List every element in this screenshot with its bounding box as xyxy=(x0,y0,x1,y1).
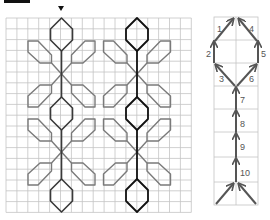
step-label-5: 5 xyxy=(261,49,266,59)
stitch-guide: 1 2 3 4 5 6 7 8 9 10 xyxy=(206,17,266,205)
step-label-9: 9 xyxy=(240,142,245,152)
step-label-2: 2 xyxy=(206,49,211,59)
header-bar xyxy=(4,0,30,3)
start-marker-icon xyxy=(58,6,64,11)
step-label-7: 7 xyxy=(240,95,245,105)
blackwork-diagram: 1 2 3 4 5 6 7 8 9 10 xyxy=(0,0,270,220)
step-label-4: 4 xyxy=(249,24,254,34)
stitch-grid xyxy=(6,18,191,212)
step-label-10: 10 xyxy=(240,168,250,178)
step-label-3: 3 xyxy=(219,74,224,84)
step-label-6: 6 xyxy=(249,74,254,84)
step-label-1: 1 xyxy=(217,24,222,34)
step-label-8: 8 xyxy=(240,119,245,129)
